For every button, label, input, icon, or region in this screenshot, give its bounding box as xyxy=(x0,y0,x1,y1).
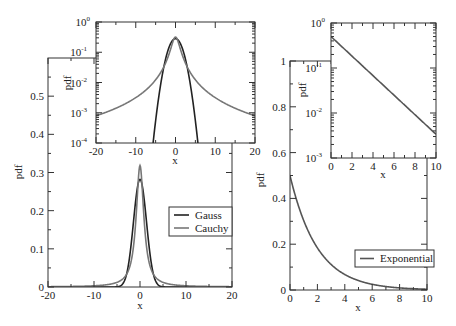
right-main-curves xyxy=(290,176,427,290)
ytick-label: 10-4 xyxy=(70,136,87,149)
ytick-label: 10-2 xyxy=(305,106,322,119)
xtick-label: 6 xyxy=(391,160,397,172)
right-main-xlabel: x xyxy=(355,301,361,313)
xtick-label: 10 xyxy=(422,292,434,304)
ytick-label: 1 xyxy=(281,55,287,67)
left-legend: Gauss Cauchy xyxy=(169,207,232,236)
left-main-xlabel: x xyxy=(137,299,143,311)
right-inset-xlabel: x xyxy=(380,168,386,180)
ytick-label: 0 xyxy=(39,281,45,293)
legend-cauchy-label: Cauchy xyxy=(195,222,229,234)
xtick-label: 8 xyxy=(412,160,418,172)
xtick-label: -10 xyxy=(128,145,143,157)
right-legend: Exponential xyxy=(355,250,434,267)
ytick-label: 10-1 xyxy=(305,61,322,74)
xtick-label: 8 xyxy=(397,292,403,304)
ytick-label: 100 xyxy=(76,15,91,28)
xtick-label: 0 xyxy=(287,292,293,304)
left-inset-bg xyxy=(96,22,255,143)
left-main-ylabel: pdf xyxy=(12,164,24,179)
ytick-label: 100 xyxy=(311,16,326,29)
xtick-label: -20 xyxy=(89,145,104,157)
ytick-label: 0.2 xyxy=(272,238,286,250)
xtick-label: 4 xyxy=(370,160,376,172)
right-main-ylabel: pdf xyxy=(254,172,266,187)
xtick-label: 10 xyxy=(210,145,222,157)
ytick-label: 0.4 xyxy=(272,192,286,204)
xtick-label: 10 xyxy=(431,160,443,172)
ytick-label: 0.3 xyxy=(30,167,44,179)
ytick-label: 0.1 xyxy=(30,243,44,255)
right-inset-plot: 024681010010-110-210-3 x pdf xyxy=(296,16,442,180)
xtick-label: 4 xyxy=(342,292,348,304)
ytick-label: 10-3 xyxy=(305,151,322,164)
ytick-label: 0.8 xyxy=(272,101,286,113)
figure: -20-100102000.10.20.30.40.5 x pdf Gauss … xyxy=(0,0,456,326)
xtick-label: 0 xyxy=(328,160,334,172)
left-inset-xlabel: x xyxy=(172,154,178,166)
xtick-label: 20 xyxy=(250,145,262,157)
left-inset-plot: -20-100102010010-110-210-310-4 x pdf xyxy=(61,15,261,183)
right-inset-ylabel: pdf xyxy=(296,82,308,97)
ytick-label: 0.4 xyxy=(30,128,44,140)
xtick-label: 2 xyxy=(349,160,355,172)
xtick-label: 10 xyxy=(181,289,193,301)
xtick-label: 20 xyxy=(227,289,239,301)
legend-gauss-label: Gauss xyxy=(195,209,222,221)
ytick-label: 0.2 xyxy=(30,205,44,217)
ytick-label: 0.5 xyxy=(30,90,44,102)
xtick-label: 6 xyxy=(369,292,375,304)
legend-exponential-label: Exponential xyxy=(380,252,433,264)
right-inset-bg xyxy=(331,23,436,158)
ytick-label: 10-3 xyxy=(70,106,87,119)
ytick-label: 10-1 xyxy=(70,45,87,58)
xtick-label: 2 xyxy=(315,292,321,304)
xtick-label: -10 xyxy=(87,289,102,301)
ytick-label: 0 xyxy=(281,284,287,296)
left-inset-ylabel: pdf xyxy=(61,75,73,90)
ytick-label: 0.6 xyxy=(272,147,286,159)
curve-exponential xyxy=(290,176,427,290)
